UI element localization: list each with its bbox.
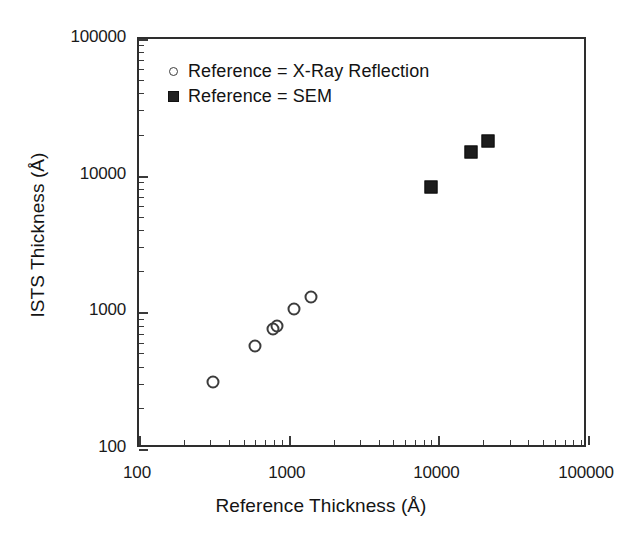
x-tick [438,436,440,445]
x-tick [555,440,556,445]
legend-label-sem: Reference = SEM [188,86,332,107]
plot-area: Reference = X-Ray Reflection Reference =… [137,37,586,447]
x-tick [415,440,416,445]
x-tick [565,440,566,445]
x-tick [282,440,283,445]
x-tick [528,440,529,445]
y-tick [139,60,144,61]
legend-entry-xray: Reference = X-Ray Reflection [165,59,429,84]
x-tick [588,436,590,445]
y-tick [139,135,144,136]
y-tick [139,189,144,190]
x-tick [424,440,425,445]
y-tick [139,353,144,354]
y-tick-label: 100000 [48,27,126,47]
y-tick [139,230,144,231]
y-tick-label: 1000 [48,300,126,320]
x-tick [510,440,511,445]
data-point [425,180,438,193]
y-tick [139,93,144,94]
y-tick [139,217,144,218]
legend-label-xray: Reference = X-Ray Reflection [188,61,429,82]
y-tick [139,110,144,111]
scatter-plot-figure: ISTS Thickness (Å) Reference = X-Ray Ref… [0,0,642,539]
data-point [482,135,495,148]
y-tick [139,367,144,368]
chart-legend: Reference = X-Ray Reflection Reference =… [165,59,429,109]
y-tick [139,319,144,320]
y-tick [139,52,144,53]
x-tick [289,436,291,445]
y-tick [139,45,144,46]
y-tick [139,312,148,314]
x-tick [483,440,484,445]
x-tick [274,440,275,445]
x-tick [229,440,230,445]
y-tick [139,176,148,178]
x-tick-label: 1000 [268,463,305,483]
y-tick [139,449,148,451]
data-point [249,339,262,352]
y-tick [139,271,144,272]
y-axis-title: ISTS Thickness (Å) [27,85,49,385]
x-tick [573,440,574,445]
legend-entry-sem: Reference = SEM [165,84,429,109]
x-tick-label: 100 [123,463,151,483]
y-tick [139,197,144,198]
x-tick-label: 10000 [413,463,459,483]
y-tick [139,384,144,385]
open-circle-icon [165,67,181,76]
y-tick-label: 10000 [48,164,126,184]
x-tick [379,440,380,445]
x-tick [581,440,582,445]
y-tick [139,206,144,207]
y-tick [139,343,144,344]
data-point [464,145,477,158]
y-tick [139,80,144,81]
x-tick [334,440,335,445]
x-tick-label: 100000 [558,463,614,483]
data-point [206,375,219,388]
x-tick [393,440,394,445]
x-tick [360,440,361,445]
filled-square-icon [165,91,181,102]
y-tick [139,326,144,327]
x-tick [184,440,185,445]
x-tick [244,440,245,445]
x-tick [255,440,256,445]
data-point [270,320,283,333]
y-tick-label: 100 [48,437,126,457]
x-tick [543,440,544,445]
x-tick [139,436,141,445]
x-tick [431,440,432,445]
x-tick [405,440,406,445]
data-point [304,290,317,303]
x-tick [210,440,211,445]
data-point [287,303,300,316]
y-tick [139,182,144,183]
x-axis-title: Reference Thickness (Å) [0,495,642,517]
y-tick [139,334,144,335]
y-tick [139,39,148,41]
x-tick [265,440,266,445]
y-tick [139,408,144,409]
y-tick [139,69,144,70]
y-tick [139,247,144,248]
